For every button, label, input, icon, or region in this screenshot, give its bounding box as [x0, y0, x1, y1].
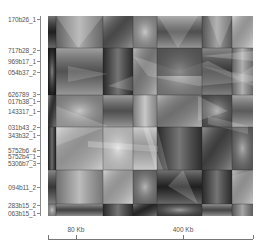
y-label: 170b26_1	[8, 16, 36, 23]
y-label: 054b37_2	[8, 69, 36, 76]
heatmap-block-texture	[133, 204, 157, 216]
heatmap-block-texture	[103, 204, 133, 216]
heatmap	[48, 16, 253, 216]
y-tick	[37, 50, 41, 51]
heatmap-block-texture	[103, 16, 133, 48]
y-axis-labels: 170b26_1 717b28_2 969b17_1 054b37_2 6267…	[0, 0, 36, 249]
heatmap-block-texture	[232, 16, 253, 48]
heatmap-block-texture	[103, 170, 133, 204]
heatmap-block-texture	[133, 170, 157, 204]
heatmap-block-texture	[202, 204, 232, 216]
x-tick	[253, 235, 254, 239]
y-tick	[37, 205, 41, 206]
heatmap-block-texture	[48, 95, 56, 127]
y-tick	[37, 127, 41, 128]
y-label: 063b15_1	[8, 210, 36, 217]
heatmap-block-texture	[157, 204, 202, 216]
heatmap-block-texture	[202, 170, 232, 204]
x-tick	[76, 235, 77, 239]
y-label: 717b28_2	[8, 47, 36, 54]
heatmap-block-texture	[56, 204, 103, 216]
heatmap-block-texture	[48, 16, 56, 48]
heatmap-block-texture	[232, 127, 253, 170]
x-tick-label: 80 Kb	[68, 226, 85, 233]
y-tick	[37, 72, 41, 73]
y-label: 5752b4_1	[8, 153, 36, 160]
y-tick	[37, 61, 41, 62]
heatmap-block-texture	[103, 95, 133, 127]
y-tick	[37, 187, 41, 188]
y-tick	[37, 111, 41, 112]
heatmap-block-texture	[202, 127, 232, 170]
y-label: 626789_3	[8, 91, 36, 98]
y-tick	[37, 150, 41, 151]
y-axis-line	[40, 16, 41, 216]
y-tick	[37, 163, 41, 164]
heatmap-block-texture	[232, 204, 253, 216]
heatmap-block-texture	[133, 16, 157, 48]
y-tick	[37, 101, 41, 102]
x-tick	[183, 235, 184, 239]
y-tick	[37, 213, 41, 214]
heatmap-block-texture	[48, 204, 56, 216]
heatmap-block-texture	[48, 48, 56, 95]
heatmap-block-texture	[157, 95, 202, 127]
heatmap-block-texture	[133, 95, 157, 127]
y-label: 283b15_2	[8, 202, 36, 209]
y-tick	[37, 94, 41, 95]
y-tick	[37, 135, 41, 136]
heatmap-block-texture	[48, 127, 56, 170]
heatmap-block-texture	[232, 95, 253, 127]
y-label: 5306b7_3	[8, 160, 36, 167]
y-label: 343b32_1	[8, 132, 36, 139]
y-label: 031b43_2	[8, 124, 36, 131]
y-label: 094b11_2	[8, 184, 36, 191]
heatmap-block-texture	[56, 170, 103, 204]
x-tick-label: 400 Kb	[173, 226, 194, 233]
y-tick	[37, 19, 41, 20]
y-label: 969b17_1	[8, 58, 36, 65]
heatmap-block-texture	[48, 170, 56, 204]
y-tick	[37, 156, 41, 157]
x-tick	[48, 235, 49, 239]
y-label: 143317_1	[8, 108, 36, 115]
y-label: 017b38_1	[8, 98, 36, 105]
x-axis-line	[48, 239, 253, 240]
